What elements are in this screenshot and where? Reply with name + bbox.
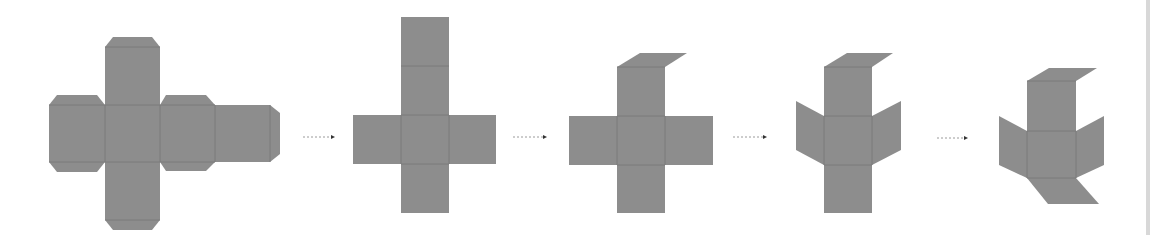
- step-2-cross-net: [353, 17, 496, 213]
- right-face: [665, 116, 713, 165]
- top-tab: [105, 37, 160, 47]
- top-face-folded: [1027, 68, 1097, 81]
- arrow-1: [303, 135, 335, 139]
- arrow-4: [937, 136, 968, 140]
- bottom-face: [401, 164, 449, 213]
- bottom-tab: [105, 220, 160, 230]
- cube-net-folding-diagram: [0, 0, 1150, 235]
- top-face-folded: [617, 53, 687, 67]
- upper-face: [824, 67, 872, 116]
- upper-face: [1027, 81, 1076, 131]
- left-face-folded: [999, 116, 1027, 178]
- top-face-folded: [824, 53, 893, 67]
- arrow-2: [513, 135, 547, 139]
- left-face: [353, 115, 401, 164]
- bottom-face-folded: [1027, 178, 1099, 204]
- right-face: [449, 115, 496, 164]
- arrow-head-icon: [964, 136, 968, 140]
- bottom-face: [824, 165, 872, 213]
- top-face: [105, 47, 160, 105]
- arrow-3: [733, 135, 767, 139]
- bottom-face: [617, 165, 665, 213]
- right-face: [160, 95, 215, 171]
- arrow-head-icon: [331, 135, 335, 139]
- step-5-bottom-folded: [999, 68, 1104, 204]
- right-face-folded: [872, 101, 901, 165]
- bottom-face: [105, 162, 160, 220]
- upper-face: [617, 67, 665, 116]
- top-face: [401, 17, 449, 66]
- center-face: [401, 115, 449, 164]
- step-3-top-folded: [569, 53, 713, 213]
- left-face: [569, 116, 617, 165]
- center-face: [1027, 131, 1076, 178]
- left-face: [49, 95, 105, 172]
- step-1-net-with-tabs: [49, 37, 280, 230]
- arrow-head-icon: [543, 135, 547, 139]
- center-face: [105, 105, 160, 162]
- step-4-sides-folded: [796, 53, 901, 213]
- center-face: [617, 116, 665, 165]
- right-face-folded: [1076, 116, 1104, 178]
- arrow-head-icon: [763, 135, 767, 139]
- center-face: [824, 116, 872, 165]
- upper-face: [401, 66, 449, 115]
- left-face-folded: [796, 101, 824, 165]
- page-edge: [1146, 0, 1150, 235]
